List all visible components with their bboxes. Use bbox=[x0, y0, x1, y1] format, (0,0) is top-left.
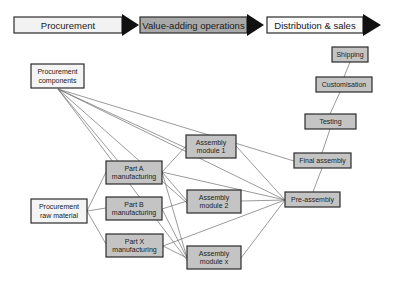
stage-value-adding-label: Value-adding operations bbox=[142, 20, 245, 31]
node-part-a: Part Amanufacturing bbox=[106, 161, 162, 184]
process-header: Procurement Value-adding operations Dist… bbox=[14, 14, 381, 36]
stage-procurement: Procurement bbox=[14, 14, 139, 36]
node-proc-raw-label: Procurement bbox=[39, 203, 79, 210]
edge-testing-to-customisation bbox=[330, 92, 340, 114]
edge-asm-2-to-pre-assembly bbox=[241, 200, 285, 201]
node-asm-1-label: module 1 bbox=[197, 147, 226, 154]
edge-proc-components-to-asm-2 bbox=[58, 89, 187, 203]
node-testing: Testing bbox=[305, 114, 356, 129]
node-part-a-label: Part A bbox=[124, 165, 143, 172]
node-part-a-label: manufacturing bbox=[112, 173, 156, 181]
node-part-x: Part Xmanufacturing bbox=[106, 234, 163, 257]
stage-distribution: Distribution & sales bbox=[267, 14, 381, 36]
stage-arrow-icon bbox=[247, 14, 264, 36]
edge-proc-components-to-asm-1 bbox=[58, 89, 186, 148]
node-shipping: Shipping bbox=[332, 47, 368, 62]
node-asm-2-label: module 2 bbox=[200, 202, 229, 209]
node-part-x-label: Part X bbox=[125, 238, 145, 245]
node-final-assembly-label: Final assembly bbox=[299, 157, 346, 165]
edge-part-x-to-asm-x bbox=[163, 246, 187, 258]
node-asm-x-label: module x bbox=[200, 258, 229, 265]
node-part-b-label: manufacturing bbox=[112, 209, 156, 217]
edge-proc-components-to-final-assembly bbox=[58, 89, 294, 161]
edge-proc-raw-to-part-b bbox=[87, 208, 106, 211]
edge-final-assembly-to-testing bbox=[322, 129, 330, 153]
node-customisation: Customisation bbox=[316, 77, 372, 92]
edge-part-b-to-asm-2 bbox=[162, 201, 187, 209]
edge-customisation-to-shipping bbox=[344, 62, 350, 77]
node-testing-label: Testing bbox=[319, 118, 341, 126]
node-asm-x: Assemblymodule x bbox=[187, 246, 241, 269]
node-customisation-label: Customisation bbox=[322, 81, 366, 88]
process-nodes: ProcurementcomponentsProcurementraw mate… bbox=[31, 47, 372, 269]
node-asm-1-label: Assembly bbox=[196, 139, 227, 147]
edge-asm-1-to-pre-assembly bbox=[236, 146, 285, 200]
edge-proc-raw-to-part-a bbox=[87, 172, 106, 211]
stage-distribution-label: Distribution & sales bbox=[274, 20, 356, 31]
node-asm-x-label: Assembly bbox=[199, 250, 230, 258]
node-part-b: Part Bmanufacturing bbox=[106, 197, 162, 220]
stage-procurement-label: Procurement bbox=[41, 20, 96, 31]
node-proc-raw: Procurementraw material bbox=[31, 199, 87, 223]
edge-asm-x-to-pre-assembly bbox=[241, 200, 285, 258]
node-proc-components-label: components bbox=[38, 77, 77, 85]
edge-proc-raw-to-part-x bbox=[87, 211, 106, 244]
stage-arrow-icon bbox=[122, 14, 139, 36]
node-proc-raw-label: raw material bbox=[40, 212, 79, 219]
edge-proc-components-to-part-a bbox=[58, 89, 118, 161]
node-asm-2: Assemblymodule 2 bbox=[187, 190, 241, 213]
stage-value-adding: Value-adding operations bbox=[140, 14, 264, 36]
node-part-x-label: manufacturing bbox=[112, 246, 156, 254]
node-asm-2-label: Assembly bbox=[199, 194, 230, 202]
node-pre-assembly-label: Pre-assembly bbox=[291, 196, 334, 204]
edge-part-a-to-asm-1 bbox=[162, 146, 186, 172]
edge-pre-assembly-to-final-assembly bbox=[313, 168, 322, 192]
value-chain-diagram: Procurement Value-adding operations Dist… bbox=[0, 0, 398, 281]
node-final-assembly: Final assembly bbox=[294, 153, 351, 168]
node-pre-assembly: Pre-assembly bbox=[285, 192, 340, 207]
node-part-b-label: Part B bbox=[124, 201, 144, 208]
node-proc-components: Procurementcomponents bbox=[31, 64, 84, 88]
edge-part-a-to-asm-2 bbox=[162, 172, 187, 201]
node-shipping-label: Shipping bbox=[336, 51, 363, 59]
node-proc-components-label: Procurement bbox=[37, 68, 77, 75]
stage-arrow-icon bbox=[363, 14, 381, 36]
node-asm-1: Assemblymodule 1 bbox=[186, 135, 236, 158]
edge-part-b-to-asm-x bbox=[162, 209, 187, 258]
